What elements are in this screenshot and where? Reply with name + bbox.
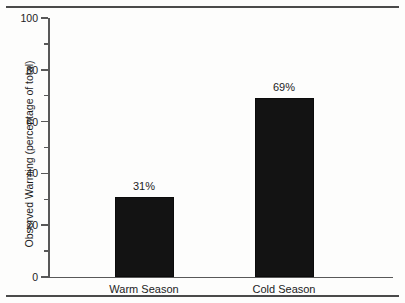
- y-tick-label: 100: [4, 13, 38, 24]
- y-axis-line: [48, 18, 50, 278]
- y-tick-minor: [44, 43, 48, 45]
- y-tick-major: [41, 224, 48, 226]
- y-tick-minor: [44, 95, 48, 97]
- y-tick-minor: [44, 147, 48, 149]
- figure: 020406080100 Observed Warming (percentag…: [0, 0, 405, 303]
- y-axis-title: Observed Warming (percentage of total): [23, 29, 35, 279]
- y-tick-major: [41, 121, 48, 123]
- bottom-divider-rule: [6, 295, 399, 297]
- bar: [255, 98, 314, 277]
- y-tick-major: [41, 17, 48, 19]
- y-tick-major: [41, 69, 48, 71]
- bar-value-label: 31%: [104, 181, 184, 192]
- x-category-label: Warm Season: [84, 284, 204, 295]
- top-divider-rule: [6, 6, 399, 8]
- y-tick-minor: [44, 199, 48, 201]
- y-tick-major: [41, 276, 48, 278]
- bar: [115, 197, 174, 277]
- y-tick-minor: [44, 250, 48, 252]
- y-tick-major: [41, 173, 48, 175]
- x-axis-line: [48, 277, 393, 279]
- bar-value-label: 69%: [244, 82, 324, 93]
- x-category-label: Cold Season: [224, 284, 344, 295]
